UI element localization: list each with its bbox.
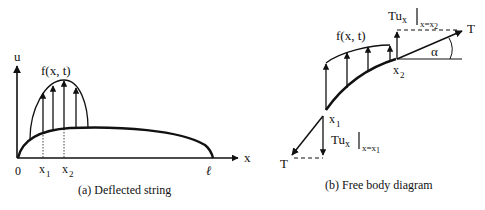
tension-right-label: T bbox=[467, 21, 475, 36]
caption-a: (a) Deflected string bbox=[78, 183, 171, 197]
u-axis-label: u bbox=[14, 49, 21, 64]
svg-text:Tux: Tux bbox=[331, 132, 350, 149]
panel-free-body-diagram: f(x, t) α T x2 Tux x=x2 T x1 Tux x=x1 (b… bbox=[280, 8, 475, 192]
load-label: f(x, t) bbox=[41, 63, 71, 78]
load-envelope-curve bbox=[326, 45, 390, 63]
tension-left-arrow-icon bbox=[292, 116, 323, 155]
x2-label: x2 bbox=[62, 162, 74, 179]
string-segment-curve bbox=[326, 59, 396, 110]
string-vibration-figure: u x f(x, t) 0 x1 x2 ℓ (a) Deflected stri… bbox=[0, 0, 485, 210]
x-axis-label: x bbox=[244, 150, 251, 165]
shear-bottom-label: Tux x=x1 bbox=[331, 132, 380, 155]
panel-deflected-string: u x f(x, t) 0 x1 x2 ℓ (a) Deflected stri… bbox=[14, 49, 251, 197]
x2-label: x2 bbox=[393, 63, 405, 80]
svg-text:Tux: Tux bbox=[388, 8, 407, 25]
svg-text:x=x2: x=x2 bbox=[420, 19, 438, 31]
tension-left-label: T bbox=[280, 156, 288, 171]
shear-top-label: Tux x=x2 bbox=[388, 8, 438, 31]
angle-label: α bbox=[431, 44, 438, 59]
length-label: ℓ bbox=[206, 163, 212, 178]
angle-arc bbox=[449, 38, 452, 59]
load-label: f(x, t) bbox=[336, 28, 366, 43]
deflected-string-curve bbox=[18, 128, 213, 158]
x1-label: x1 bbox=[329, 112, 341, 129]
origin-label: 0 bbox=[15, 164, 21, 178]
caption-b: (b) Free body diagram bbox=[325, 178, 433, 192]
distributed-load-arrows bbox=[43, 81, 76, 132]
svg-text:x=x1: x=x1 bbox=[362, 143, 380, 155]
x1-label: x1 bbox=[39, 162, 51, 179]
